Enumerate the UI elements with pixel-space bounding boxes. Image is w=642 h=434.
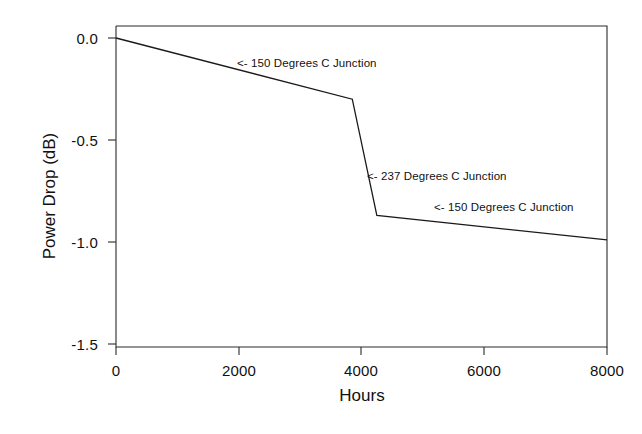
chart-figure: 0.0 -0.5 -1.0 -1.5 0 2000 4000 6000 8000… <box>0 0 642 434</box>
x-tick-label-3: 6000 <box>467 362 501 379</box>
x-tick-label-0: 0 <box>112 362 121 379</box>
y-tick-label-0: 0.0 <box>50 30 98 47</box>
y-axis-ticks <box>108 38 116 344</box>
x-axis-title: Hours <box>116 386 608 406</box>
x-tick-label-4: 8000 <box>590 362 624 379</box>
annotation-237-degrees: <- 237 Degrees C Junction <box>367 170 507 182</box>
annotation-150-degrees-first: <- 150 Degrees C Junction <box>237 57 377 69</box>
axes-frame <box>116 26 607 347</box>
y-axis-title: Power Drop (dB) <box>40 86 60 306</box>
annotation-150-degrees-second: <- 150 Degrees C Junction <box>434 201 574 213</box>
y-tick-label-3: -1.5 <box>50 336 98 353</box>
x-axis-ticks <box>116 347 607 355</box>
x-tick-label-1: 2000 <box>222 362 256 379</box>
x-tick-label-2: 4000 <box>344 362 378 379</box>
